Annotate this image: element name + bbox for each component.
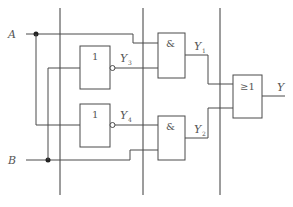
not-gate-lower: 1 [80,104,115,147]
and-gate-upper-symbol: & [166,38,175,49]
wire-a-to-and-upper [26,34,158,43]
and-gate-lower: & [158,116,185,160]
inversion-bubble-icon [110,123,115,128]
input-b-label: B [7,154,16,167]
wire-b-to-not-upper [48,68,80,160]
inversion-bubble-icon [110,66,115,71]
and-gate-upper: & [158,33,185,78]
not-gate-upper-symbol: 1 [92,51,98,62]
wire-a-to-not-lower [36,34,80,125]
not-gate-lower-symbol: 1 [92,109,98,120]
wire-y2 [185,108,233,138]
wire-y1 [185,55,233,84]
and-gate-lower-symbol: & [166,121,175,132]
or-gate-symbol: ≥1 [240,81,255,92]
y4-subscript: 4 [128,116,132,123]
y1-subscript: 1 [202,47,206,54]
or-gate: ≥1 [233,75,262,118]
y2-subscript: 2 [202,130,206,137]
output-y-label: Y [277,81,286,94]
input-a-label: A [7,28,16,41]
logic-circuit-diagram: A B 1 Y 3 1 Y 4 & Y 1 & Y 2 ≥1 Y [0,0,293,207]
y3-subscript: 3 [128,59,132,66]
wire-b-to-and-lower [26,150,158,160]
not-gate-upper: 1 [80,46,115,89]
